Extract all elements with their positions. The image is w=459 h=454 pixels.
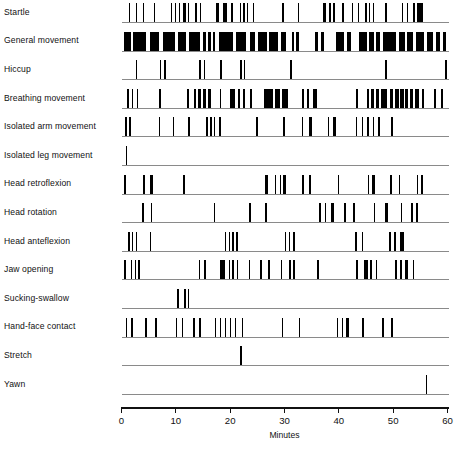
event-mark xyxy=(250,32,255,51)
event-mark xyxy=(302,117,304,136)
event-mark xyxy=(333,117,336,136)
event-mark xyxy=(385,60,387,79)
event-mark xyxy=(372,175,375,194)
event-mark xyxy=(331,203,334,222)
event-mark xyxy=(373,117,375,136)
event-mark xyxy=(385,203,388,222)
event-mark xyxy=(225,318,226,337)
event-mark xyxy=(298,3,300,22)
event-mark xyxy=(413,260,415,279)
event-mark xyxy=(133,32,146,51)
event-mark xyxy=(124,175,125,194)
event-mark xyxy=(307,89,309,108)
event-mark xyxy=(143,3,144,22)
event-mark xyxy=(289,232,291,251)
event-mark xyxy=(358,3,359,22)
event-mark xyxy=(364,260,368,279)
event-mark xyxy=(229,260,231,279)
event-mark xyxy=(220,60,222,79)
event-mark xyxy=(436,32,441,51)
event-mark xyxy=(219,117,221,136)
event-mark xyxy=(131,318,132,337)
event-mark xyxy=(183,3,186,22)
x-axis-title: Minutes xyxy=(269,430,299,440)
event-mark xyxy=(371,89,374,108)
event-mark xyxy=(132,232,134,251)
event-mark xyxy=(138,260,140,279)
row-label-head-anteflexion: Head anteflexion xyxy=(4,236,70,246)
event-mark xyxy=(203,89,206,108)
event-mark xyxy=(296,32,299,51)
event-mark xyxy=(159,89,161,108)
event-mark xyxy=(333,3,335,22)
event-mark xyxy=(210,117,212,136)
event-mark xyxy=(369,3,371,22)
event-mark xyxy=(367,117,369,136)
event-mark xyxy=(269,32,278,51)
event-mark xyxy=(329,3,331,22)
event-mark xyxy=(289,260,291,279)
event-mark xyxy=(238,89,241,108)
event-mark xyxy=(321,32,324,51)
event-mark xyxy=(390,89,393,108)
event-mark xyxy=(179,3,180,22)
event-mark xyxy=(417,175,419,194)
event-mark xyxy=(342,3,344,22)
event-mark xyxy=(220,89,222,108)
event-mark xyxy=(421,175,423,194)
event-mark xyxy=(163,32,175,51)
event-mark xyxy=(250,89,252,108)
event-mark xyxy=(441,89,443,108)
event-mark xyxy=(206,117,208,136)
event-mark xyxy=(150,32,159,51)
event-mark xyxy=(127,89,129,108)
event-mark xyxy=(283,175,286,194)
event-mark xyxy=(427,32,433,51)
event-mark xyxy=(131,260,133,279)
event-mark xyxy=(204,260,206,279)
event-mark xyxy=(194,89,196,108)
x-axis-tick-label: 10 xyxy=(170,415,181,426)
event-mark xyxy=(400,232,404,251)
event-mark xyxy=(399,175,401,194)
event-mark xyxy=(260,260,262,279)
event-mark xyxy=(376,32,380,51)
row-label-stretch: Stretch xyxy=(4,350,32,360)
event-mark xyxy=(422,89,424,108)
event-mark xyxy=(124,32,131,51)
event-mark xyxy=(244,60,245,79)
event-mark xyxy=(243,89,245,108)
event-mark xyxy=(405,260,408,279)
event-mark xyxy=(176,318,177,337)
event-mark xyxy=(407,3,409,22)
event-mark xyxy=(275,89,280,108)
event-mark xyxy=(150,232,152,251)
event-mark xyxy=(214,203,215,222)
event-mark xyxy=(302,89,304,108)
event-mark xyxy=(199,60,201,79)
event-mark xyxy=(367,89,369,108)
event-mark xyxy=(193,318,194,337)
event-mark xyxy=(242,318,244,337)
event-mark xyxy=(195,3,197,22)
event-mark xyxy=(336,32,344,51)
event-mark xyxy=(323,3,327,22)
event-mark xyxy=(189,32,200,51)
event-mark xyxy=(282,3,284,22)
event-mark xyxy=(355,232,357,251)
event-mark xyxy=(232,232,234,251)
event-mark xyxy=(132,89,134,108)
event-mark xyxy=(275,175,277,194)
event-mark xyxy=(258,32,266,51)
event-mark xyxy=(407,32,414,51)
event-mark xyxy=(198,89,201,108)
event-mark xyxy=(359,32,366,51)
row-label-hiccup: Hiccup xyxy=(4,64,31,74)
event-mark xyxy=(173,117,174,136)
event-mark xyxy=(236,232,238,251)
event-mark xyxy=(383,32,395,51)
event-mark xyxy=(290,60,292,79)
event-mark xyxy=(249,260,251,279)
event-mark xyxy=(401,203,403,222)
event-mark xyxy=(129,117,130,136)
